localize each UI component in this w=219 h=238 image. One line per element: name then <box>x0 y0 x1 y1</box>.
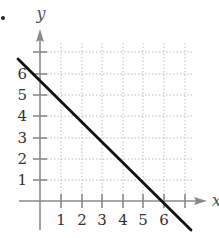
y-tick-label: 4 <box>17 107 27 125</box>
x-tick-label: 4 <box>118 211 128 229</box>
x-tick-label: 5 <box>138 211 148 229</box>
y-tick-label: 5 <box>17 86 27 104</box>
series-line <box>18 59 191 230</box>
x-tick-label: 1 <box>56 211 66 229</box>
line-chart: 1 2 3 4 5 6 x 1 2 3 4 5 6 y <box>0 0 219 238</box>
x-axis: 1 2 3 4 5 6 x <box>19 191 219 229</box>
x-tick-label: 2 <box>77 211 87 229</box>
x-tick-label: 6 <box>159 211 169 229</box>
bullet-marker <box>1 16 5 20</box>
x-axis-label: x <box>212 191 219 210</box>
x-tick-label: 3 <box>97 211 107 229</box>
y-tick-label: 1 <box>17 171 27 189</box>
y-tick-label: 2 <box>17 150 27 168</box>
y-tick-label: 3 <box>17 129 27 147</box>
grid <box>40 43 192 201</box>
y-axis-label: y <box>35 4 46 23</box>
y-axis: 1 2 3 4 5 6 y <box>17 4 47 230</box>
